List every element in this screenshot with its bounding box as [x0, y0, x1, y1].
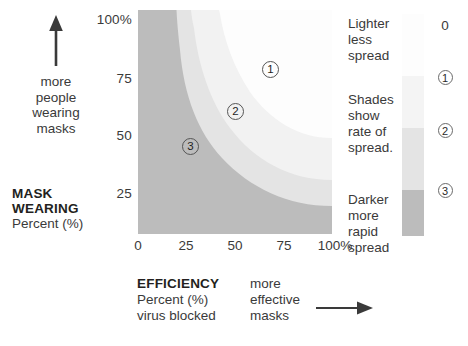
colorbar-gradient [402, 14, 424, 236]
legend-note-bot-line-1: Darker [348, 192, 402, 208]
plot-area: 1 2 3 [138, 10, 332, 234]
plot-marker-2: 2 [227, 103, 244, 120]
legend-note-mid-line-3: rate of [348, 124, 402, 140]
legend-scale-2-circle: 2 [438, 123, 453, 138]
legend-note-top-line-3: spread [348, 48, 402, 64]
plot-marker-3: 3 [182, 138, 199, 155]
legend-scale-1-circle: 1 [438, 70, 453, 85]
x-caption-line-1: more [250, 276, 300, 292]
right-arrow-icon [316, 300, 374, 316]
colorbar-segment-2 [402, 128, 424, 190]
x-tick-0: 0 [134, 238, 142, 253]
x-axis-title-main: EFFICIENCY [137, 276, 247, 292]
legend-scale-0: 0 [430, 18, 460, 33]
colorbar-segment-1 [402, 76, 424, 128]
legend-note-darker: Darker more rapid spread [348, 192, 402, 256]
x-axis-title-line-2: Percent (%) [137, 292, 247, 308]
spread-rate-contour-field [138, 10, 332, 234]
legend-note-bot-line-4: spread [348, 240, 402, 256]
x-tick-25: 25 [178, 238, 193, 253]
y-axis-direction-block: more people wearing masks [14, 14, 98, 136]
legend-note-bot-line-3: rapid [348, 224, 402, 240]
y-caption-line-3: wearing [14, 105, 98, 121]
y-axis-direction-caption: more people wearing masks [14, 74, 98, 136]
y-axis-title-units: Percent (%) [12, 216, 112, 232]
legend-scale-3-circle: 3 [438, 183, 453, 198]
legend-scale-1: 1 [430, 70, 460, 85]
x-axis-title: EFFICIENCY Percent (%) virus blocked [137, 276, 247, 324]
spread-rate-colorbar [402, 14, 424, 236]
plot-marker-1: 1 [262, 61, 279, 78]
x-axis-ticks: 0 25 50 75 100% [110, 238, 360, 260]
legend-note-top-line-1: Lighter [348, 16, 402, 32]
y-caption-line-4: masks [14, 121, 98, 137]
colorbar-segment-3 [402, 190, 424, 236]
x-caption-line-2: effective [250, 292, 300, 308]
legend-note-shades: Shades show rate of spread. [348, 92, 402, 156]
y-caption-line-2: people [14, 90, 98, 106]
x-caption-line-3: masks [250, 308, 300, 324]
x-tick-75: 75 [276, 238, 291, 253]
colorbar-segment-0 [402, 14, 424, 76]
x-axis-title-line-3: virus blocked [137, 308, 247, 324]
legend-scale-2: 2 [430, 123, 460, 138]
legend-scale: 0 1 2 3 [430, 10, 466, 240]
y-caption-line-1: more [14, 74, 98, 90]
y-axis-title: MASK WEARING Percent (%) [12, 186, 112, 232]
x-tick-50: 50 [227, 238, 242, 253]
legend-note-top-line-2: less [348, 32, 402, 48]
legend-note-mid-line-4: spread. [348, 140, 402, 156]
legend-scale-3: 3 [430, 183, 460, 198]
y-axis-title-line-2: WEARING [12, 201, 112, 216]
x-axis-direction-block: more effective masks [250, 276, 390, 324]
legend-note-bot-line-2: more [348, 208, 402, 224]
up-arrow-icon [45, 14, 67, 66]
legend-note-mid-line-1: Shades [348, 92, 402, 108]
y-axis-title-line-1: MASK [12, 186, 112, 201]
legend-note-lighter: Lighter less spread [348, 16, 402, 64]
legend: Lighter less spread Shades show rate of … [348, 10, 466, 240]
legend-note-mid-line-2: show [348, 108, 402, 124]
mask-efficiency-contour-figure: 1 2 3 100% 75 50 25 0 25 50 75 100% more… [0, 0, 468, 346]
x-axis-direction-caption: more effective masks [250, 276, 300, 324]
